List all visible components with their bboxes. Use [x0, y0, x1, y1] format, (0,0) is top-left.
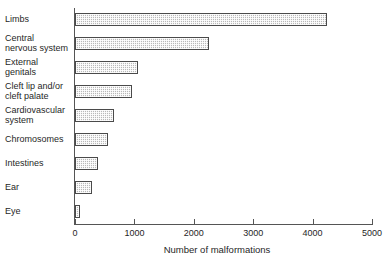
x-tick-mark: [253, 219, 254, 225]
x-tick-mark: [75, 219, 76, 225]
x-axis-title: Number of malformations: [0, 244, 388, 255]
category-label: Intestines: [5, 158, 71, 168]
category-label: Cardiovascular system: [5, 105, 71, 125]
bar: [75, 85, 132, 98]
bar-row: [75, 176, 372, 200]
x-axis-line: [74, 224, 372, 225]
bar: [75, 61, 138, 74]
category-label: Ear: [5, 182, 71, 192]
x-tick-mark: [194, 219, 195, 225]
bar: [75, 205, 80, 218]
bar: [75, 157, 98, 170]
bar: [75, 13, 327, 26]
x-tick-label: 3000: [233, 228, 273, 239]
x-tick-mark: [372, 219, 373, 225]
category-label: External genitals: [5, 57, 71, 77]
bar: [75, 109, 114, 122]
bar: [75, 133, 108, 146]
bar-row: [75, 104, 372, 128]
x-tick-label: 0: [55, 228, 95, 239]
category-label: Limbs: [5, 14, 71, 24]
bar-row: [75, 80, 372, 104]
category-label: Chromosomes: [5, 134, 71, 144]
plot-area: [75, 8, 372, 224]
category-label: Central nervous system: [5, 33, 71, 53]
category-label: Eye: [5, 206, 71, 216]
bar-row: [75, 152, 372, 176]
bar-row: [75, 56, 372, 80]
x-tick-label: 2000: [174, 228, 214, 239]
bar-row: [75, 200, 372, 224]
x-tick-mark: [313, 219, 314, 225]
bar: [75, 181, 92, 194]
x-tick-label: 4000: [293, 228, 333, 239]
x-axis-title-text: Number of malformations: [164, 244, 271, 255]
x-tick-mark: [134, 219, 135, 225]
bar-row: [75, 8, 372, 32]
bar-chart: LimbsCentral nervous systemExternal geni…: [0, 0, 388, 264]
category-label: Cleft lip and/or cleft palate: [5, 81, 71, 101]
x-tick-label: 1000: [114, 228, 154, 239]
bar-row: [75, 128, 372, 152]
bar: [75, 37, 209, 50]
x-tick-label: 5000: [352, 228, 388, 239]
bar-row: [75, 32, 372, 56]
